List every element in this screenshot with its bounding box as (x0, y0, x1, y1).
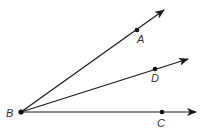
point-d (153, 67, 158, 72)
vertex-b: B (6, 107, 24, 119)
label-c: C (157, 117, 165, 129)
point-b (18, 109, 23, 114)
ray-bc: C (21, 110, 196, 129)
label-a: A (136, 33, 144, 45)
ray-ba-line (21, 10, 164, 112)
ray-bd-line (21, 59, 188, 112)
angle-diagram: A D C B (0, 0, 206, 134)
label-d: D (151, 72, 159, 84)
point-a (135, 28, 140, 33)
point-c (160, 110, 165, 115)
label-b: B (6, 107, 13, 119)
ray-bd: D (21, 59, 188, 112)
ray-ba: A (21, 10, 164, 112)
